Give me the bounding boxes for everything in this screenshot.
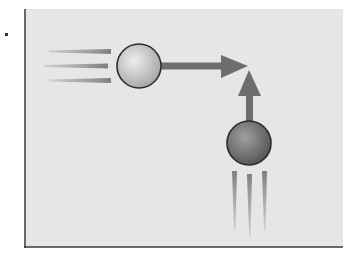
collision-diagram — [0, 0, 345, 259]
marker-dot — [5, 33, 8, 36]
ball-moving-right — [117, 44, 161, 88]
diagram-panel — [24, 9, 343, 248]
ball-moving-up — [227, 121, 271, 165]
